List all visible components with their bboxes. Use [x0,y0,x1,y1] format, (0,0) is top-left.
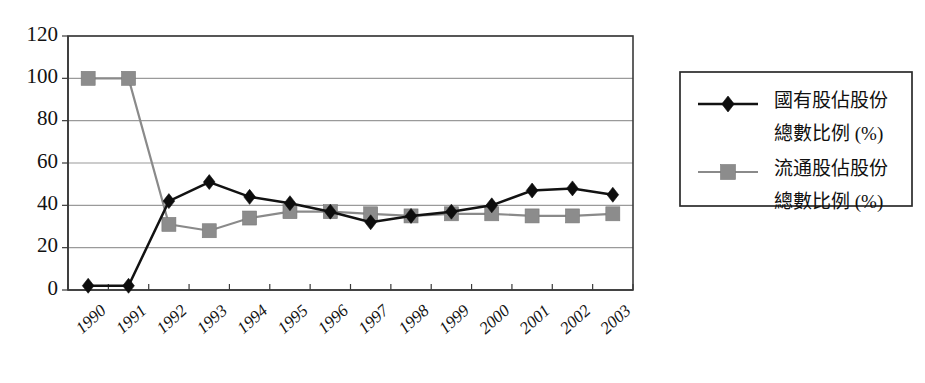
y-tick-label: 120 [27,22,59,46]
data-point-marker [162,217,176,231]
legend-label-line2: 總數比例 (%) [774,123,883,145]
legend-label-line1: 國有股佔股份 [774,90,888,111]
y-axis-tick-labels: 020406080100120 [27,22,69,300]
data-point-marker [82,278,94,293]
legend-label-line1: 流通股佔股份 [774,158,888,179]
data-point-marker [565,209,579,223]
x-tick-label: 2003 [597,301,635,338]
y-tick-label: 20 [37,233,58,257]
x-tick-label: 1998 [395,301,433,338]
x-axis-tick-labels: 1990199119921993199419951996199719981999… [72,300,635,338]
data-point-marker [81,71,95,85]
x-tick-label: 1996 [314,301,352,338]
data-point-marker [567,181,579,196]
x-axis-tick-marks [68,284,633,290]
x-tick-label: 1999 [435,301,473,338]
x-tick-label: 1991 [112,301,150,338]
x-tick-label: 1992 [153,301,191,338]
line-chart: 020406080100120 199019911992199319941995… [0,0,925,383]
x-tick-label: 2002 [556,301,594,338]
legend-sample-marker [721,165,736,180]
x-tick-label: 1993 [193,301,231,338]
data-point-marker [606,207,620,221]
x-tick-label: 1997 [354,300,393,338]
data-point-marker [122,71,136,85]
x-tick-label: 1994 [233,301,271,338]
data-point-marker [244,189,256,204]
y-tick-label: 0 [48,276,59,300]
x-tick-label: 1995 [274,301,312,338]
data-series-layer [81,71,620,293]
x-tick-label: 2000 [475,301,513,338]
data-point-marker [526,183,538,198]
chart-figure: 020406080100120 199019911992199319941995… [0,0,925,383]
y-tick-label: 40 [37,191,58,215]
data-point-marker [202,224,216,238]
legend-label-line2: 總數比例 (%) [774,191,883,213]
data-point-marker [243,211,257,225]
data-point-marker [525,209,539,223]
x-tick-label: 1990 [72,301,110,338]
x-tick-label: 2001 [516,301,554,338]
data-point-marker [123,278,135,293]
data-point-marker [203,175,215,190]
y-tick-label: 60 [37,149,58,173]
y-tick-label: 100 [27,64,59,88]
data-point-marker [607,187,619,202]
y-tick-label: 80 [37,106,58,130]
